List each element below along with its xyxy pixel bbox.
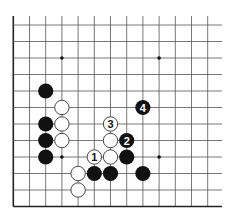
black-stone <box>103 166 118 181</box>
black-stone <box>38 83 53 98</box>
black-stone-move-2: 2 <box>119 133 134 148</box>
grid-lines <box>13 16 222 207</box>
white-stone <box>71 166 85 180</box>
white-stone <box>55 117 69 131</box>
star-point <box>157 56 161 60</box>
black-stone <box>38 116 53 131</box>
black-stone <box>87 166 102 181</box>
go-board: 3241 <box>0 0 227 222</box>
move-number: 2 <box>124 135 130 147</box>
white-stone <box>71 183 85 197</box>
star-point <box>157 155 161 159</box>
black-stone-move-4: 4 <box>135 100 150 115</box>
white-stone <box>55 133 69 147</box>
white-stone-move-1: 1 <box>87 150 101 164</box>
black-stone <box>38 149 53 164</box>
star-point <box>60 56 64 60</box>
black-stone <box>135 166 150 181</box>
white-stone-move-3: 3 <box>103 117 117 131</box>
move-number: 1 <box>91 151 97 163</box>
black-stone <box>38 133 53 148</box>
move-number: 4 <box>140 102 147 114</box>
white-stone <box>55 100 69 114</box>
move-number: 3 <box>107 118 113 130</box>
star-point <box>60 155 64 159</box>
white-stone <box>103 150 117 164</box>
black-stone <box>119 149 134 164</box>
white-stone <box>103 133 117 147</box>
